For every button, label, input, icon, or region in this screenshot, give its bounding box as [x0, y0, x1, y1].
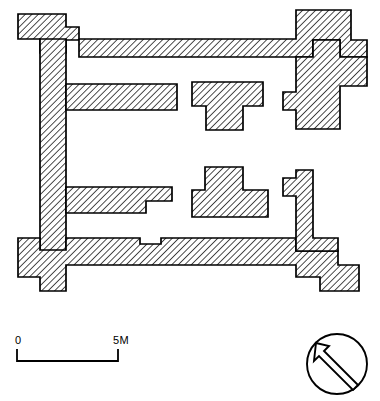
plan-canvas: 0 5M — [0, 0, 380, 401]
scale-bar-start-label: 0 — [15, 334, 21, 346]
scale-bar-end-label: 5M — [113, 334, 129, 346]
floor-plan-drawing: 0 5M — [0, 0, 380, 401]
wall-left — [40, 39, 66, 266]
wall-cross-upper — [66, 84, 177, 110]
